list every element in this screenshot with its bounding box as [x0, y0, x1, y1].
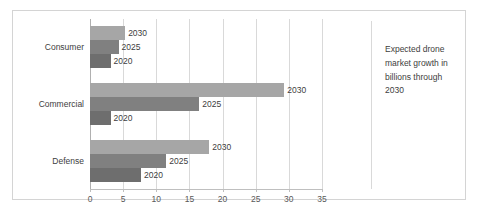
annotation-text: Expected drone market growth in billions… [385, 43, 463, 98]
tick-mark-35 [322, 189, 323, 192]
category-group: Commercial203020252020 [90, 76, 322, 133]
bar-defense-2020: 2020 [90, 168, 141, 182]
tick-mark-5 [123, 189, 124, 192]
tick-mark-15 [189, 189, 190, 192]
panel-divider [371, 21, 372, 189]
tick-mark-0 [90, 189, 91, 192]
bar-data-label: 2030 [212, 142, 231, 152]
category-label: Commercial [39, 99, 84, 109]
gridline-35 [322, 19, 323, 189]
category-group: Defense203020252020 [90, 132, 322, 189]
x-tick-label: 35 [317, 194, 326, 204]
bar-commercial-2020: 2020 [90, 111, 111, 125]
chart-figure: Consumer203020252020Commercial2030202520… [12, 10, 466, 200]
x-tick-label: 10 [152, 194, 161, 204]
tick-mark-20 [223, 189, 224, 192]
bar-consumer-2025: 2025 [90, 40, 119, 54]
bar-data-label: 2030 [287, 85, 306, 95]
x-tick-label: 30 [284, 194, 293, 204]
bar-defense-2030: 2030 [90, 140, 209, 154]
bar-consumer-2020: 2020 [90, 54, 111, 68]
tick-mark-10 [156, 189, 157, 192]
x-tick-label: 25 [251, 194, 260, 204]
tick-mark-25 [256, 189, 257, 192]
bar-data-label: 2025 [122, 42, 141, 52]
tick-mark-30 [289, 189, 290, 192]
x-tick-label: 0 [88, 194, 93, 204]
bar-data-label: 2020 [144, 170, 163, 180]
x-tick-label: 5 [121, 194, 126, 204]
bar-data-label: 2020 [114, 56, 133, 66]
bar-data-label: 2030 [128, 28, 147, 38]
category-group: Consumer203020252020 [90, 19, 322, 76]
bar-consumer-2030: 2030 [90, 26, 125, 40]
category-label: Defense [52, 156, 84, 166]
plot-area: Consumer203020252020Commercial2030202520… [90, 19, 322, 189]
plot-region: Consumer203020252020Commercial2030202520… [13, 11, 371, 199]
bar-commercial-2025: 2025 [90, 97, 199, 111]
bar-defense-2025: 2025 [90, 154, 166, 168]
bar-data-label: 2025 [169, 156, 188, 166]
x-tick-label: 20 [218, 194, 227, 204]
bar-data-label: 2025 [202, 99, 221, 109]
bar-commercial-2030: 2030 [90, 83, 284, 97]
x-tick-label: 15 [185, 194, 194, 204]
category-label: Consumer [45, 42, 84, 52]
bar-data-label: 2020 [114, 113, 133, 123]
